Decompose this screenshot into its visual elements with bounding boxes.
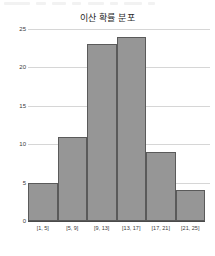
bar	[146, 152, 176, 221]
artifact-smudge	[72, 2, 81, 5]
x-tick-label: [5, 9]	[58, 226, 88, 232]
y-axis-tick-labels: 0510152025	[0, 0, 26, 256]
bar	[87, 44, 117, 221]
x-axis-tick-labels: [1, 5][5, 9][9, 13][13, 17][17, 21][21, …	[28, 226, 205, 240]
x-tick-label: [13, 17]	[117, 226, 147, 232]
y-tick-label: 25	[2, 26, 26, 32]
chart-title: 이산 확률 분포	[0, 11, 215, 24]
y-tick-label: 10	[2, 141, 26, 147]
artifact-smudge	[52, 2, 66, 5]
x-tick-label: [1, 5]	[28, 226, 58, 232]
cropped-header-artifact	[0, 0, 215, 8]
bar	[176, 190, 206, 221]
plot-area	[28, 29, 205, 221]
artifact-smudge	[110, 2, 118, 5]
y-tick-label: 5	[2, 180, 26, 186]
bar	[117, 37, 147, 221]
x-tick-label: [17, 21]	[146, 226, 176, 232]
artifact-smudge	[124, 2, 142, 5]
bar	[28, 183, 58, 221]
y-tick-label: 20	[2, 64, 26, 70]
x-tick-label: [9, 13]	[87, 226, 117, 232]
artifact-smudge	[148, 2, 155, 5]
y-tick-label: 15	[2, 103, 26, 109]
x-tick-label: [21, 25]	[176, 226, 206, 232]
y-tick-label: 0	[2, 218, 26, 224]
bar	[58, 137, 88, 221]
artifact-smudge	[36, 2, 46, 5]
x-axis-line	[28, 221, 205, 222]
artifact-smudge	[88, 2, 104, 5]
bar-series	[28, 29, 205, 221]
discrete-probability-distribution-chart: 이산 확률 분포 0510152025 [1, 5][5, 9][9, 13][…	[0, 0, 215, 256]
